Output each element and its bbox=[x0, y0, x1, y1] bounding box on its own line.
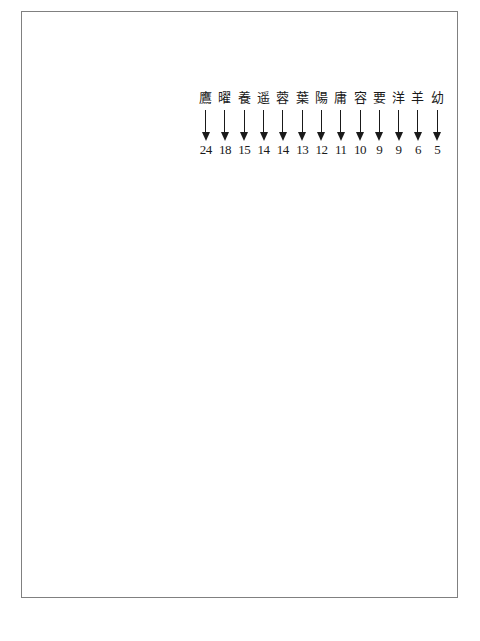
column-item: 容 10 bbox=[350, 90, 369, 157]
arrow-down-icon bbox=[297, 110, 307, 142]
column-item: 養 15 bbox=[235, 90, 254, 157]
count-value: 13 bbox=[296, 142, 308, 157]
count-value: 6 bbox=[415, 142, 421, 157]
character-label: 遥 bbox=[257, 90, 270, 106]
count-value: 24 bbox=[200, 142, 212, 157]
character-label: 容 bbox=[354, 90, 367, 106]
arrow-down-icon bbox=[278, 110, 288, 142]
arrow-down-icon bbox=[432, 110, 442, 142]
count-value: 10 bbox=[354, 142, 366, 157]
character-label: 養 bbox=[238, 90, 251, 106]
character-label: 曜 bbox=[218, 90, 231, 106]
arrow-down-icon bbox=[239, 110, 249, 142]
column-item: 要 9 bbox=[370, 90, 389, 157]
character-frequency-list: 鷹 24 曜 18 養 15 遥 14 蓉 14 葉 13 陽 12 庸 11 … bbox=[196, 90, 447, 157]
column-item: 鷹 24 bbox=[196, 90, 215, 157]
character-label: 羊 bbox=[411, 90, 424, 106]
arrow-down-icon bbox=[201, 110, 211, 142]
count-value: 18 bbox=[219, 142, 231, 157]
count-value: 15 bbox=[238, 142, 250, 157]
column-item: 庸 11 bbox=[331, 90, 350, 157]
arrow-down-icon bbox=[336, 110, 346, 142]
column-item: 幼 5 bbox=[428, 90, 447, 157]
count-value: 9 bbox=[396, 142, 402, 157]
column-item: 曜 18 bbox=[215, 90, 234, 157]
arrow-down-icon bbox=[316, 110, 326, 142]
character-label: 陽 bbox=[315, 90, 328, 106]
column-item: 蓉 14 bbox=[273, 90, 292, 157]
character-label: 葉 bbox=[296, 90, 309, 106]
arrow-down-icon bbox=[374, 110, 384, 142]
count-value: 12 bbox=[315, 142, 327, 157]
count-value: 11 bbox=[335, 142, 347, 157]
arrow-down-icon bbox=[259, 110, 269, 142]
column-item: 陽 12 bbox=[312, 90, 331, 157]
character-label: 蓉 bbox=[276, 90, 289, 106]
arrow-down-icon bbox=[394, 110, 404, 142]
count-value: 14 bbox=[277, 142, 289, 157]
character-label: 洋 bbox=[392, 90, 405, 106]
count-value: 5 bbox=[434, 142, 440, 157]
character-label: 鷹 bbox=[199, 90, 212, 106]
arrow-down-icon bbox=[220, 110, 230, 142]
column-item: 羊 6 bbox=[408, 90, 427, 157]
count-value: 14 bbox=[258, 142, 270, 157]
column-item: 遥 14 bbox=[254, 90, 273, 157]
column-item: 葉 13 bbox=[292, 90, 311, 157]
count-value: 9 bbox=[376, 142, 382, 157]
character-label: 要 bbox=[373, 90, 386, 106]
character-label: 幼 bbox=[431, 90, 444, 106]
arrow-down-icon bbox=[355, 110, 365, 142]
character-label: 庸 bbox=[334, 90, 347, 106]
arrow-down-icon bbox=[413, 110, 423, 142]
column-item: 洋 9 bbox=[389, 90, 408, 157]
